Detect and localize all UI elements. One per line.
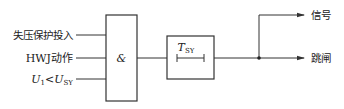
signal-output-wire xyxy=(259,15,304,58)
input-label-hwj-text: HWJ动作 xyxy=(26,52,73,65)
and-gate-label: & xyxy=(117,52,127,65)
usy-sub: SY xyxy=(64,79,74,87)
input-label-hwj-action: HWJ动作 xyxy=(26,52,73,65)
less-than-op: < xyxy=(45,73,54,86)
input-label-voltage-condition: U1<USY xyxy=(31,73,73,87)
input-label-undervoltage-protection-enabled: 失压保护投入 xyxy=(13,29,74,41)
output-label-trip: 跳闸 xyxy=(311,52,331,64)
junction-dot xyxy=(257,56,261,60)
timer-label-sub: SY xyxy=(185,47,195,55)
output-label-signal: 信号 xyxy=(311,9,331,21)
protection-logic-diagram: 失压保护投入 HWJ动作 U1<USY & TSY 信号 跳闸 xyxy=(0,0,344,109)
